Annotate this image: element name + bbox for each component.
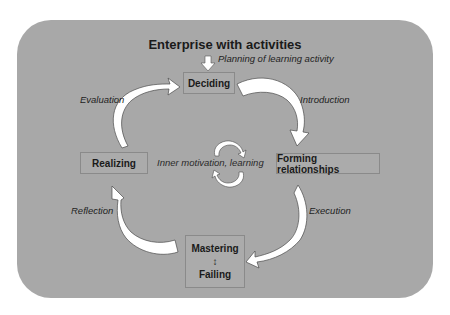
center-label: Inner motivation, learning: [157, 157, 264, 168]
node-forming-label: Forming relationships: [277, 153, 379, 175]
node-failing-label: Failing: [199, 268, 231, 281]
node-mastering-failing: Mastering ↕ Failing: [185, 235, 245, 288]
edge-label-execution: Execution: [309, 205, 351, 216]
node-mastering-label: Mastering: [191, 242, 238, 255]
node-deciding: Deciding: [183, 72, 235, 94]
entry-arrow-icon: [201, 56, 215, 71]
node-realizing: Realizing: [80, 152, 148, 174]
edge-label-evaluation: Evaluation: [80, 94, 124, 105]
node-realizing-label: Realizing: [92, 158, 136, 169]
edge-label-reflection: Reflection: [71, 205, 113, 216]
reflection-arrow-icon: [112, 186, 178, 254]
introduction-arrow-icon: [237, 78, 309, 146]
evaluation-arrow-icon: [113, 78, 180, 148]
edge-label-introduction: Introduction: [300, 94, 350, 105]
execution-arrow-icon: [246, 185, 307, 268]
node-forming-relationships: Forming relationships: [276, 153, 380, 174]
updown-arrow-icon: ↕: [213, 255, 218, 268]
node-deciding-label: Deciding: [188, 78, 230, 89]
entry-label: Planning of learning activity: [218, 53, 334, 64]
